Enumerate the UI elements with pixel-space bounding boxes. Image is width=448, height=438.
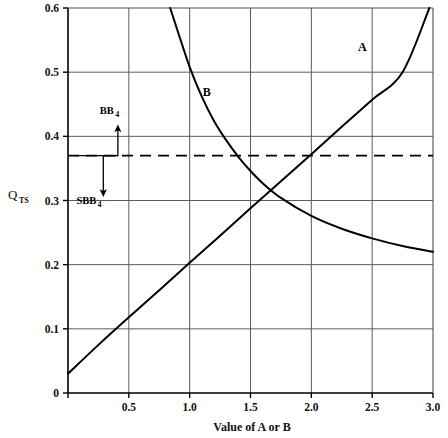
y-tick-label: 0.5 [45, 66, 60, 78]
y-tick-label: 0.6 [45, 2, 60, 14]
y-tick-label: 0.1 [45, 323, 60, 335]
x-tick-label: 2.0 [304, 401, 319, 413]
x-axis-label: Value of A or B [213, 420, 290, 434]
y-tick-label: 0.4 [45, 130, 60, 142]
x-tick-label: 2.5 [365, 401, 380, 413]
y-axis-label-subscript: TS [19, 196, 29, 205]
qts-vs-value-line-chart: 00.10.20.30.40.50.6 0.51.01.52.02.53.0 B… [0, 0, 448, 438]
x-tick-label: 1.0 [182, 401, 197, 413]
sbb4-label: SBB [76, 195, 96, 206]
bb4-label-subscript: 4 [115, 110, 119, 119]
series-label-a: A [358, 40, 367, 54]
y-tick-label: 0 [53, 387, 59, 399]
x-tick-label: 0.5 [122, 401, 137, 413]
y-axis-label: Q [8, 187, 18, 202]
bb4-label: BB [100, 105, 114, 116]
series-label-b: B [203, 85, 211, 99]
x-tick-label: 1.5 [243, 401, 258, 413]
chart-container: 00.10.20.30.40.50.6 0.51.01.52.02.53.0 B… [0, 0, 448, 438]
y-tick-label: 0.3 [45, 195, 60, 207]
x-tick-label: 3.0 [426, 401, 441, 413]
sbb4-label-subscript: 4 [98, 200, 102, 209]
y-tick-label: 0.2 [45, 259, 60, 271]
